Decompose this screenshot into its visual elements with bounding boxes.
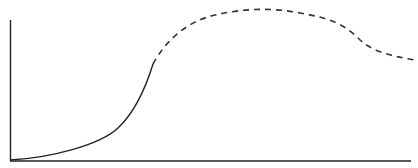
chart xyxy=(0,0,418,168)
chart-svg xyxy=(0,0,418,168)
solid-curve xyxy=(10,64,153,160)
dashed-curve xyxy=(153,9,415,64)
